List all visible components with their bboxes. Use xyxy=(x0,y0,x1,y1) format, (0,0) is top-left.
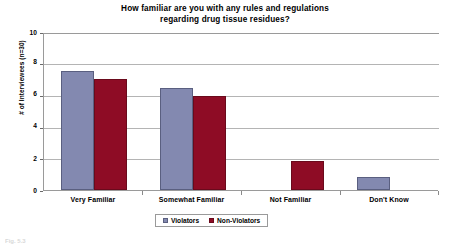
chart-legend: Violators Non-Violators xyxy=(155,214,268,227)
y-tick-label-2: 2 xyxy=(11,155,37,162)
category-tick-3 xyxy=(340,191,341,195)
y-tick-label-4: 4 xyxy=(11,122,37,129)
chart-title-line-2: regarding drug tissue residues? xyxy=(60,15,390,26)
legend-item-violators: Violators xyxy=(163,217,199,224)
bar-violators-very-familiar xyxy=(61,71,94,190)
bar-violators-dont-know xyxy=(357,177,390,190)
gridline-8 xyxy=(44,64,439,65)
category-label-very-familiar: Very Familiar xyxy=(44,196,142,203)
category-label-not-familiar: Not Familiar xyxy=(241,196,340,203)
chart-figure: How familiar are you with any rules and … xyxy=(0,0,452,247)
y-tick-mark-0 xyxy=(40,191,43,192)
legend-item-non-violators: Non-Violators xyxy=(209,217,260,224)
category-tick-2 xyxy=(241,191,242,195)
category-tick-4 xyxy=(438,191,439,195)
bar-non-violators-not-familiar xyxy=(291,161,324,190)
category-tick-1 xyxy=(142,191,143,195)
gridline-10 xyxy=(44,33,439,34)
y-tick-label-10: 10 xyxy=(11,29,37,36)
bar-violators-somewhat-familiar xyxy=(160,88,193,190)
category-label-dont-know: Don't Know xyxy=(340,196,438,203)
legend-label-non-violators: Non-Violators xyxy=(217,217,260,224)
y-tick-label-0: 0 xyxy=(11,187,37,194)
bar-non-violators-somewhat-familiar xyxy=(193,96,226,190)
violators-swatch-icon xyxy=(163,218,168,223)
chart-title: How familiar are you with any rules and … xyxy=(60,4,390,25)
category-label-somewhat-familiar: Somewhat Familiar xyxy=(142,196,241,203)
legend-label-violators: Violators xyxy=(171,217,199,224)
page-caption: Fig. 5.3 xyxy=(5,238,26,247)
plot-area xyxy=(43,33,438,191)
y-axis-title: # of Interviewees (n=30) xyxy=(18,3,25,153)
y-tick-label-6: 6 xyxy=(11,90,37,97)
non-violators-swatch-icon xyxy=(209,218,214,223)
bar-non-violators-very-familiar xyxy=(94,79,127,190)
y-tick-label-8: 8 xyxy=(11,58,37,65)
chart-title-line-1: How familiar are you with any rules and … xyxy=(60,4,390,15)
